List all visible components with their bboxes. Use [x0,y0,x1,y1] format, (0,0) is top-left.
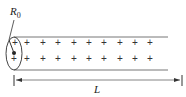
right-arrowhead-icon [174,78,180,82]
plus-charge-icon: + [147,37,153,48]
plus-charge-icon: + [147,53,153,64]
plus-charge-icon: + [40,53,46,64]
plus-charge-icon: + [101,53,107,64]
plus-charge-icon: + [55,53,61,64]
plus-charge-icon: + [132,37,138,48]
plus-charge-icon: + [40,37,46,48]
plus-charge-icon: + [55,37,61,48]
plus-charge-icon: + [86,53,92,64]
charges-group: ++++++++++++++++++++ [11,37,153,64]
left-arrowhead-icon [16,78,22,82]
plus-charge-icon: + [117,53,123,64]
plus-charge-icon: + [12,37,18,48]
plus-charge-icon: + [71,37,77,48]
plus-charge-icon: + [132,53,138,64]
radius-label: R0 [10,6,21,20]
plus-charge-icon: + [71,53,77,64]
plus-charge-icon: + [11,53,17,64]
cylinder-diagram: ++++++++++++++++++++ [0,0,186,97]
length-label: L [94,84,100,95]
plus-charge-icon: + [86,37,92,48]
plus-charge-icon: + [101,37,107,48]
plus-charge-icon: + [24,53,30,64]
plus-charge-icon: + [117,37,123,48]
plus-charge-icon: + [24,37,30,48]
